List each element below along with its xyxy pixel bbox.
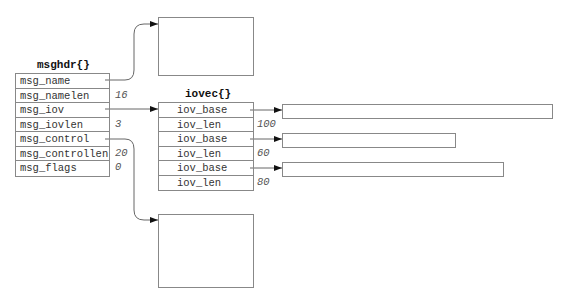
iovec-field-iov-base-2: iov_base bbox=[159, 161, 253, 176]
msghdr-field-msg-controllen: msg_controllen bbox=[16, 147, 109, 162]
msg-name-buffer bbox=[158, 17, 254, 76]
msghdr-field-msg-namelen: msg_namelen bbox=[16, 89, 109, 104]
msghdr-field-msg-iov: msg_iov bbox=[16, 103, 109, 118]
iovec-title: iovec{} bbox=[185, 88, 231, 100]
msghdr-field-msg-control: msg_control bbox=[16, 132, 109, 147]
iovec-field-iov-base-1: iov_base bbox=[159, 132, 253, 147]
iov-len-0-value: 100 bbox=[257, 118, 276, 130]
iovec-field-iov-len-1: iov_len bbox=[159, 147, 253, 162]
msghdr-title: msghdr{} bbox=[37, 59, 90, 71]
msghdr-field-msg-name: msg_name bbox=[16, 74, 109, 89]
iov-len-2-value: 80 bbox=[257, 176, 270, 188]
msghdr-table: msg_name msg_namelen msg_iov msg_iovlen … bbox=[15, 73, 110, 177]
msghdr-field-msg-iovlen: msg_iovlen bbox=[16, 118, 109, 133]
iov-buffer-2 bbox=[282, 162, 504, 177]
msghdr-field-msg-flags: msg_flags bbox=[16, 161, 109, 176]
iov-buffer-1 bbox=[282, 133, 456, 148]
iovec-field-iov-base-0: iov_base bbox=[159, 103, 253, 118]
iov-len-1-value: 60 bbox=[257, 147, 270, 159]
msg-flags-value: 0 bbox=[115, 161, 121, 173]
msg-iovlen-value: 3 bbox=[115, 118, 121, 130]
iovec-field-iov-len-2: iov_len bbox=[159, 176, 253, 191]
iovec-table: iov_base iov_len iov_base iov_len iov_ba… bbox=[158, 102, 254, 191]
msg-control-buffer bbox=[158, 214, 254, 288]
iov-buffer-0 bbox=[282, 104, 553, 119]
msg-controllen-value: 20 bbox=[115, 147, 128, 159]
msg-namelen-value: 16 bbox=[115, 89, 128, 101]
iovec-field-iov-len-0: iov_len bbox=[159, 118, 253, 133]
